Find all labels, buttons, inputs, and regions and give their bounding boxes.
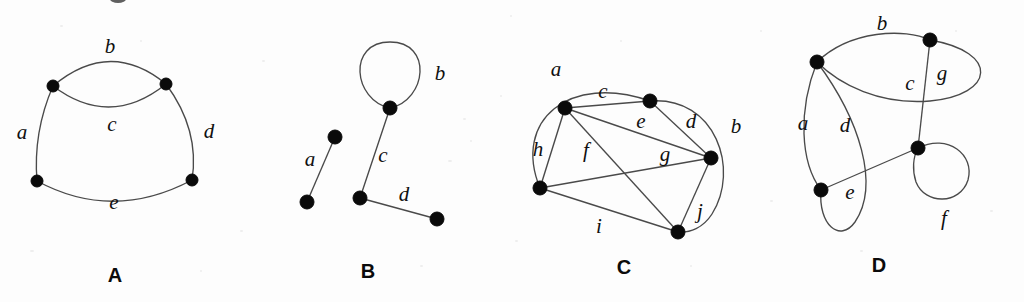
graph-panel-d: abcdefgD: [0, 0, 1024, 302]
edge-label-d-c: c: [905, 71, 915, 95]
edge-label-d-e: e: [845, 180, 854, 204]
edge-d-g: [918, 40, 930, 148]
edge-d-e: [821, 148, 918, 190]
edge-label-d-f: f: [941, 206, 950, 230]
edge-d-c: [817, 40, 981, 102]
panel-caption-d: D: [859, 254, 899, 276]
edge-label-d-b: b: [877, 11, 888, 35]
figure-canvas: abcdeAabcdBabcdefghijCabcdefgD: [0, 0, 1024, 302]
edge-label-d-g: g: [937, 61, 948, 85]
vertex-d-v3: [911, 141, 925, 155]
edge-label-d-a: a: [798, 111, 809, 135]
edge-d-b: [817, 33, 930, 62]
edge-label-d-d: d: [840, 113, 851, 137]
vertex-d-v2: [923, 33, 937, 47]
vertex-d-v1: [810, 55, 824, 69]
vertex-d-v4: [814, 183, 828, 197]
edge-d-d: [817, 62, 866, 231]
